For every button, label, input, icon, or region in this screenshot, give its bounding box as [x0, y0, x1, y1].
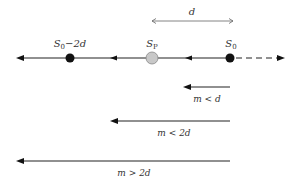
diagram-canvas: d S0−2d SP S0 m < d m < 2d m > 2d	[0, 0, 299, 186]
svg-text:m < 2d: m < 2d	[157, 128, 191, 138]
label-s0: S0	[225, 38, 236, 51]
point-sp	[146, 52, 158, 64]
left-arrowhead-icon	[16, 55, 24, 61]
svg-text:m > 2d: m > 2d	[117, 168, 151, 178]
arrow-m-gt-2d: m > 2d	[16, 158, 230, 178]
point-s0-minus-2d	[66, 54, 75, 63]
arrow-m-lt-d: m < d	[183, 84, 230, 104]
point-s0	[226, 54, 235, 63]
arrow-m-lt-2d: m < 2d	[110, 118, 230, 138]
direction-arrowhead-icon	[185, 56, 192, 61]
label-sp: SP	[146, 38, 158, 51]
label-s0-minus-2d: S0−2d	[54, 38, 86, 51]
distance-label: d	[189, 6, 195, 17]
svg-text:m < d: m < d	[193, 94, 221, 104]
right-arrowhead-icon	[277, 55, 285, 61]
direction-arrowhead-icon	[110, 56, 117, 61]
distance-d-indicator: d	[152, 6, 233, 24]
